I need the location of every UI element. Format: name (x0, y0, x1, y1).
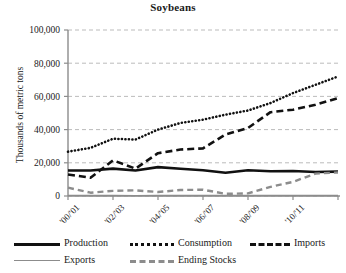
y-tick-label: 0 (55, 191, 60, 201)
data-series (68, 76, 338, 195)
y-tick-labels: 020,00040,00060,00080,000100,000 (29, 25, 60, 201)
series-line-imports (68, 98, 338, 178)
legend-swatch-stocks-icon (130, 255, 174, 265)
legend-item-consumption[interactable]: Consumption (130, 237, 232, 248)
y-tick-label: 20,000 (34, 158, 60, 168)
legend-swatch-consumption-icon (130, 238, 174, 248)
y-tick-label: 60,000 (34, 92, 60, 102)
x-tick-label: '02/'03 (103, 202, 127, 226)
x-tick-label: '08/'09 (238, 202, 262, 226)
legend-swatch-production-icon (14, 238, 60, 248)
legend-label-consumption: Consumption (178, 237, 232, 248)
legend-label-exports: Exports (64, 254, 95, 265)
legend-label-imports: Imports (294, 237, 325, 248)
legend-row: ExportsEnding Stocks (0, 251, 346, 268)
chart-figure: Soybeans Thousands of metric tons 020,00… (0, 0, 346, 273)
y-tick-label: 80,000 (34, 59, 60, 69)
y-tick-label: 100,000 (29, 25, 60, 35)
series-line-consumption (68, 76, 338, 151)
x-tick-labels: '00/'01'02/'03'04/'05'06/'07'08/'09'10/'… (58, 202, 307, 226)
chart-legend: ProductionConsumptionImportsExportsEndin… (0, 234, 346, 273)
legend-row: ProductionConsumptionImports (0, 234, 346, 251)
series-line-production (68, 167, 338, 173)
x-tick-label: '10/'11 (283, 202, 307, 226)
x-tick-label: '06/'07 (193, 202, 217, 226)
legend-item-production[interactable]: Production (14, 237, 108, 248)
legend-swatch-exports-icon (14, 255, 60, 265)
legend-item-imports[interactable]: Imports (250, 237, 325, 248)
legend-item-exports[interactable]: Exports (14, 254, 95, 265)
legend-label-production: Production (64, 237, 108, 248)
x-tick-label: '04/'05 (148, 202, 172, 226)
series-line-ending-stocks (68, 172, 338, 193)
legend-label-stocks: Ending Stocks (178, 254, 236, 265)
y-tick-label: 40,000 (34, 125, 60, 135)
plot-area: 020,00040,00060,00080,000100,000 '00/'01… (0, 0, 346, 234)
legend-item-stocks[interactable]: Ending Stocks (130, 254, 236, 265)
x-tick-label: '00/'01 (58, 202, 82, 226)
legend-swatch-imports-icon (250, 238, 290, 248)
